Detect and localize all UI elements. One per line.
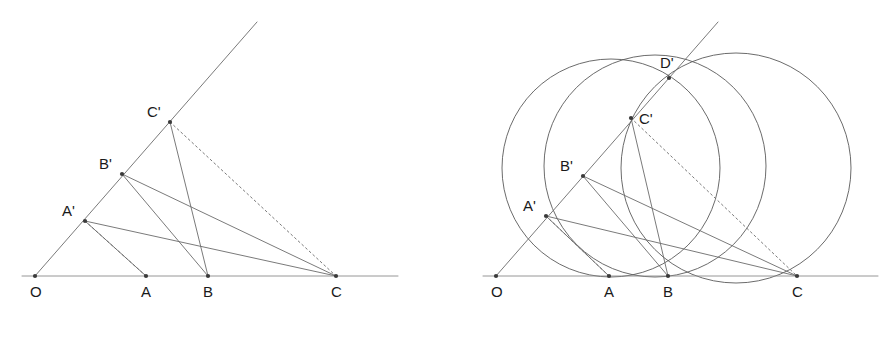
oblique-ray (35, 22, 257, 276)
segment-Bp-C (122, 174, 336, 276)
point-A[interactable] (144, 274, 148, 278)
point-B[interactable] (666, 274, 670, 278)
point-A[interactable] (607, 274, 611, 278)
segment-Ap-A (546, 216, 609, 276)
segment-Ap-A-dashed (85, 221, 146, 276)
oblique-ray (496, 22, 718, 276)
point-Dprime[interactable] (667, 76, 671, 80)
segment-Cp-B (631, 118, 668, 276)
point-label-Bprime: B' (99, 155, 112, 172)
point-O[interactable] (33, 274, 37, 278)
segment-Bp-C (583, 176, 797, 276)
segment-Bp-B (583, 176, 668, 276)
point-label-C: C (331, 283, 342, 300)
point-Cprime[interactable] (629, 116, 633, 120)
segment-Ap-C (546, 216, 797, 276)
point-Aprime[interactable] (83, 219, 87, 223)
point-C[interactable] (334, 274, 338, 278)
geometry-svg: OABCA'B'C'OABCA'B'C'D' (0, 0, 893, 338)
point-label-C: C (792, 283, 803, 300)
point-label-Cprime: C' (147, 103, 161, 120)
point-Aprime[interactable] (544, 214, 548, 218)
circle-through-C-and-Dprime (621, 53, 851, 283)
circle-through-A-and-Dprime (502, 59, 720, 277)
point-label-Dprime: D' (660, 54, 674, 71)
point-Bprime[interactable] (581, 174, 585, 178)
point-label-B: B (663, 283, 673, 300)
point-B[interactable] (206, 274, 210, 278)
similar-triangles-construction: OABCA'B'C' (22, 22, 398, 300)
diagram-canvas: OABCA'B'C'OABCA'B'C'D' (0, 0, 893, 338)
point-label-Aprime: A' (523, 197, 536, 214)
segment-Cp-C-dashed (170, 122, 336, 276)
segment-Ap-C (85, 221, 336, 276)
point-label-Cprime: C' (639, 110, 653, 127)
segment-Cp-C-dashed (631, 118, 797, 276)
point-label-O: O (30, 283, 42, 300)
point-label-O: O (491, 283, 503, 300)
circle-through-B-and-Dprime (544, 55, 766, 277)
point-label-A: A (141, 283, 151, 300)
point-label-Aprime: A' (62, 202, 75, 219)
point-C[interactable] (795, 274, 799, 278)
point-label-A: A (604, 283, 614, 300)
point-O[interactable] (494, 274, 498, 278)
point-label-Bprime: B' (560, 157, 573, 174)
circumcircles-construction: OABCA'B'C'D' (483, 22, 878, 300)
point-Bprime[interactable] (120, 172, 124, 176)
point-label-B: B (203, 283, 213, 300)
point-Cprime[interactable] (168, 120, 172, 124)
